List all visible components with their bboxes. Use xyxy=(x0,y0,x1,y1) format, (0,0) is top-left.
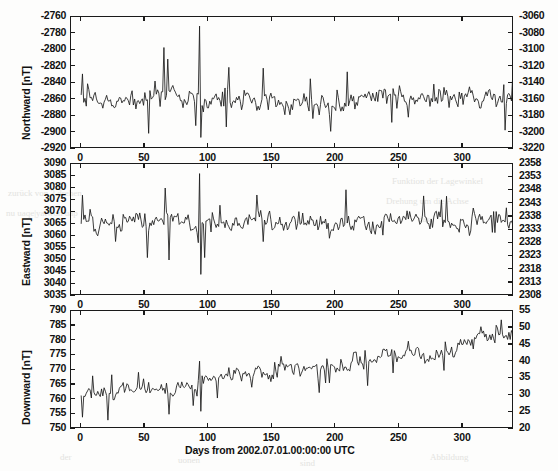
ytick-label-left: 785 xyxy=(22,318,66,330)
ytick-label-left: 790 xyxy=(22,303,66,315)
xtick-label: 150 xyxy=(251,298,291,310)
ytick-label-right: 55 xyxy=(519,303,530,315)
xtick-mark-top xyxy=(143,163,144,168)
ytick-label-left: 3070 xyxy=(22,204,66,216)
xtick-mark-top xyxy=(80,163,81,168)
ytick-label-left: 3075 xyxy=(22,192,66,204)
ytick-label-right: 2333 xyxy=(519,222,541,234)
xtick-mark-top xyxy=(334,16,335,21)
xtick-label: 100 xyxy=(187,151,227,163)
ytick-label-left: 3055 xyxy=(22,240,66,252)
xtick-mark-top xyxy=(334,163,335,168)
xtick-mark-top xyxy=(398,310,399,315)
ytick-label-left: -2880 xyxy=(22,108,66,120)
ytick-label-left: 3050 xyxy=(22,252,66,264)
xtick-mark-top xyxy=(398,16,399,21)
ytick-label-left: -2780 xyxy=(22,26,66,38)
xtick-mark-top xyxy=(461,310,462,315)
ytick-label-right: 2338 xyxy=(519,209,541,221)
xtick-mark-top xyxy=(461,163,462,168)
xtick-mark-top xyxy=(334,310,335,315)
panel-northward-plot-area xyxy=(70,16,513,148)
ytick-label-left: 3060 xyxy=(22,228,66,240)
ytick-label-right: -3080 xyxy=(519,26,544,38)
xtick-label: 250 xyxy=(378,151,418,163)
xtick-mark-bottom xyxy=(143,143,144,148)
ytick-label-right: 40 xyxy=(519,354,530,366)
xtick-label: 50 xyxy=(124,431,164,443)
ytick-label-left: 775 xyxy=(22,347,66,359)
xtick-mark-top xyxy=(80,16,81,21)
ytick-label-right: 2358 xyxy=(519,156,541,168)
xtick-label: 250 xyxy=(378,298,418,310)
xtick-label: 150 xyxy=(251,151,291,163)
xtick-mark-top xyxy=(271,16,272,21)
xtick-mark-bottom xyxy=(80,143,81,148)
xtick-mark-top xyxy=(143,16,144,21)
ytick-label-left: 780 xyxy=(22,333,66,345)
xtick-label: 200 xyxy=(315,151,355,163)
xtick-mark-top xyxy=(271,163,272,168)
bleed-text: sind xyxy=(300,458,315,468)
xtick-label: 200 xyxy=(315,298,355,310)
ytick-label-right: 30 xyxy=(519,387,530,399)
xtick-label: 0 xyxy=(60,431,100,443)
ytick-label-left: 3065 xyxy=(22,216,66,228)
bleed-text: Abbildung xyxy=(430,452,469,462)
ytick-label-right: -3120 xyxy=(519,59,544,71)
ytick-label-right: 2343 xyxy=(519,196,541,208)
xaxis-label: Days from 2002.07.01.00:00:00 UTC xyxy=(185,444,355,456)
xtick-mark-bottom xyxy=(461,290,462,295)
northward-trace xyxy=(71,17,513,148)
ytick-label-left: -2900 xyxy=(22,125,66,137)
xtick-label: 50 xyxy=(124,298,164,310)
xtick-label: 300 xyxy=(442,151,482,163)
xtick-mark-bottom xyxy=(207,143,208,148)
ytick-label-right: 2353 xyxy=(519,169,541,181)
xtick-mark-bottom xyxy=(271,290,272,295)
xtick-mark-top xyxy=(398,163,399,168)
xtick-label: 250 xyxy=(378,431,418,443)
xtick-mark-top xyxy=(207,310,208,315)
ytick-label-left: -2840 xyxy=(22,75,66,87)
xtick-label: 200 xyxy=(315,431,355,443)
ytick-label-left: 3045 xyxy=(22,264,66,276)
ytick-label-left: -2760 xyxy=(22,9,66,21)
ytick-label-left: 755 xyxy=(22,406,66,418)
xtick-mark-top xyxy=(143,310,144,315)
ytick-label-left: 760 xyxy=(22,392,66,404)
xtick-mark-bottom xyxy=(398,143,399,148)
xtick-label: 150 xyxy=(251,431,291,443)
xtick-mark-bottom xyxy=(461,143,462,148)
xtick-label: 100 xyxy=(187,431,227,443)
xtick-mark-top xyxy=(80,310,81,315)
ytick-label-left: 3090 xyxy=(22,156,66,168)
panel-downward-plot-area xyxy=(70,310,513,428)
ytick-label-right: 2308 xyxy=(519,288,541,300)
panel-eastward-plot-area xyxy=(70,163,513,295)
ytick-label-right: -3060 xyxy=(519,9,544,21)
magnetic-field-timeseries-figure: zurück von 3 drehennu uaqe|yatwon uapFun… xyxy=(0,0,558,471)
ytick-label-left: -2800 xyxy=(22,42,66,54)
xtick-mark-bottom xyxy=(80,423,81,428)
ytick-label-right: 35 xyxy=(519,370,530,382)
xtick-mark-bottom xyxy=(207,290,208,295)
xtick-mark-bottom xyxy=(143,290,144,295)
downward-trace xyxy=(71,311,513,428)
xtick-label: 300 xyxy=(442,431,482,443)
xtick-mark-bottom xyxy=(271,143,272,148)
xtick-mark-top xyxy=(207,16,208,21)
ytick-label-right: 45 xyxy=(519,337,530,349)
xtick-mark-bottom xyxy=(334,143,335,148)
ytick-label-right: -3140 xyxy=(519,75,544,87)
xtick-mark-bottom xyxy=(271,423,272,428)
xtick-mark-bottom xyxy=(143,423,144,428)
xtick-label: 0 xyxy=(60,151,100,163)
ytick-label-right: -3200 xyxy=(519,125,544,137)
xtick-mark-bottom xyxy=(398,423,399,428)
ytick-label-right: -3220 xyxy=(519,141,544,153)
eastward-trace xyxy=(71,164,513,295)
xtick-mark-top xyxy=(461,16,462,21)
ytick-label-left: 3040 xyxy=(22,276,66,288)
ytick-label-left: 3085 xyxy=(22,168,66,180)
